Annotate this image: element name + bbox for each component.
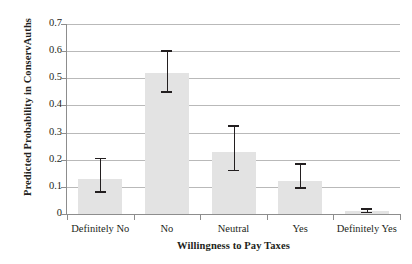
- y-axis-title: Predicted Probability in ConservAuths: [18, 0, 36, 214]
- y-tick-label: 0: [36, 208, 62, 219]
- y-tick-label: 0.5: [36, 72, 62, 83]
- x-tick-label: Definitely Yes: [325, 222, 408, 236]
- bar-chart-figure: Predicted Probability in ConservAuths 0.…: [0, 0, 412, 264]
- error-bar-cap-lower: [161, 91, 172, 93]
- bar: [145, 73, 189, 214]
- error-bar-cap-upper: [161, 50, 172, 52]
- error-bar-line: [300, 164, 301, 188]
- x-tick-mark: [333, 214, 334, 220]
- gridline: [67, 105, 400, 106]
- error-bar-cap-lower: [295, 187, 306, 189]
- error-bar-cap-lower: [95, 191, 106, 193]
- x-axis-tick-labels: Definitely NoNoNeutralYesDefinitely Yes: [67, 222, 400, 238]
- error-bar-line: [167, 51, 168, 92]
- y-tick-label: 0.3: [36, 127, 62, 138]
- gridline: [67, 51, 400, 52]
- y-tick-mark: [61, 214, 67, 215]
- y-tick-label: 0.7: [36, 18, 62, 29]
- gridline: [67, 24, 400, 25]
- y-tick-mark: [61, 24, 67, 25]
- x-tick-mark: [67, 214, 68, 220]
- error-bar-line: [100, 158, 101, 192]
- error-bar-cap-upper: [95, 158, 106, 160]
- error-bar-cap-lower: [228, 170, 239, 172]
- error-bar-cap-upper: [295, 163, 306, 165]
- y-tick-mark: [61, 133, 67, 134]
- error-bar-cap-upper: [228, 125, 239, 127]
- x-tick-mark: [400, 214, 401, 220]
- y-tick-label: 0.1: [36, 181, 62, 192]
- y-tick-label: 0.2: [36, 154, 62, 165]
- error-bar-line: [234, 126, 235, 171]
- y-tick-mark: [61, 78, 67, 79]
- y-tick-label: 0.4: [36, 99, 62, 110]
- x-axis-tick-marks: [67, 214, 400, 221]
- x-tick-mark: [200, 214, 201, 220]
- x-tick-mark: [134, 214, 135, 220]
- error-bar-cap-upper: [361, 208, 372, 210]
- y-tick-label: 0.6: [36, 45, 62, 56]
- x-axis-title: Willingness to Pay Taxes: [67, 240, 400, 251]
- y-tick-mark: [61, 187, 67, 188]
- gridline: [67, 78, 400, 79]
- y-tick-mark: [61, 51, 67, 52]
- y-tick-mark: [61, 105, 67, 106]
- y-tick-mark: [61, 160, 67, 161]
- plot-area: [67, 24, 400, 214]
- x-tick-mark: [267, 214, 268, 220]
